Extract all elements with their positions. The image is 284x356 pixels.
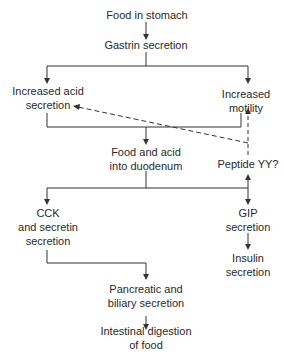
node-pancreatic-biliary-secretion: Pancreatic and biliary secretion [108,282,184,310]
node-label-line-2: into duodenum [110,159,183,173]
node-food-in-stomach: Food in stomach [106,8,187,22]
node-increased-acid-secretion: Increased acid secretion [12,84,84,112]
node-label-line-2: of food [100,338,191,352]
node-label-line-1: Food and acid [110,145,183,159]
node-label-line-1: GIP [226,206,271,220]
node-label-line-1: Intestinal digestion [100,324,191,338]
node-food-acid-duodenum: Food and acid into duodenum [110,145,183,173]
node-label-line-2: secretion [12,98,84,112]
node-label-line-1: Insulin [226,251,271,265]
node-label-line-1: Pancreatic and [108,282,184,296]
node-increased-motility: Increased motility [222,87,270,115]
node-label-line-1: Increased [222,87,270,101]
node-insulin-secretion: Insulin secretion [226,251,271,279]
node-label-line-2: biliary secretion [108,296,184,310]
node-intestinal-digestion: Intestinal digestion of food [100,324,191,352]
node-gip-secretion: GIP secretion [226,206,271,234]
node-label-line-2: secretion [226,265,271,279]
node-label-line-1: Increased acid [12,84,84,98]
node-label-line-1: CCK [18,206,78,220]
node-label: Gastrin secretion [104,39,187,51]
node-gastrin-secretion: Gastrin secretion [104,38,187,52]
node-label-line-2: and secretin [18,220,78,234]
node-label: Food in stomach [106,9,187,21]
flowchart: Food in stomach Gastrin secretion Increa… [0,0,284,356]
node-label: Peptide YY? [218,158,279,170]
node-peptide-yy: Peptide YY? [218,157,279,171]
node-label-line-2: motility [222,101,270,115]
node-label-line-3: secretion [18,234,78,248]
node-cck-secretin-secretion: CCK and secretin secretion [18,206,78,248]
node-label-line-2: secretion [226,220,271,234]
